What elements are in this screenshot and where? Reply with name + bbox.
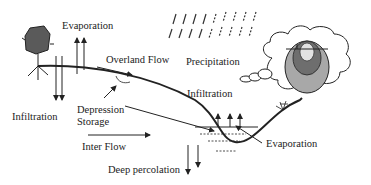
inter-flow-label: Inter Flow	[82, 141, 126, 153]
depression-storage-pointer	[125, 106, 214, 131]
depression-storage-label-2: Storage	[77, 116, 109, 128]
evaporation-pointer	[236, 126, 262, 143]
infiltration-left-label: Infiltration	[12, 111, 58, 123]
sun-icon	[285, 41, 329, 93]
depression-puddle	[116, 76, 130, 83]
overland-flow-arrow	[97, 67, 132, 75]
depression-storage-label-1: Depression	[77, 104, 124, 116]
precipitation-label: Precipitation	[186, 56, 240, 68]
hydrologic-cycle-diagram	[0, 0, 371, 185]
evaporation-arrows-top	[77, 38, 84, 74]
infiltration-right-label: Infiltration	[187, 88, 233, 100]
tree-icon	[22, 26, 54, 80]
depression-pointer-arrow	[104, 86, 116, 98]
deep-percolation-label: Deep percolation	[108, 164, 180, 176]
overland-flow-label: Overland Flow	[106, 54, 169, 66]
evaporation-arrows-depression	[218, 114, 240, 127]
rain-icon	[169, 12, 256, 38]
infiltration-arrows-left	[56, 56, 62, 100]
evaporation-bottom-label: Evaporation	[266, 138, 317, 150]
evaporation-top-label: Evaporation	[62, 20, 113, 32]
deep-percolation-arrows	[188, 145, 198, 174]
